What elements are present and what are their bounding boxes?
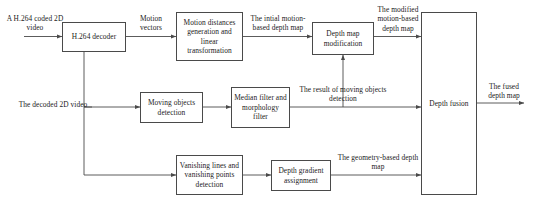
input-label-coded-video: A H.264 coded 2D video: [4, 14, 66, 33]
node-h264-decoder[interactable]: H.264 decoder: [62, 22, 126, 52]
node-median-morphology-filter-label: Median filter and morphology filter: [234, 93, 287, 121]
input-label-decoded-video-text: The decoded 2D video: [19, 100, 88, 109]
node-median-morphology-filter[interactable]: Median filter and morphology filter: [231, 87, 290, 128]
flowchart-diagram: Depth fusion H.264 decoder Motion distan…: [0, 0, 533, 207]
node-motion-distances-label: Motion distances generation and linear t…: [179, 18, 240, 56]
node-motion-distances[interactable]: Motion distances generation and linear t…: [176, 12, 243, 61]
node-depth-gradient-assignment-label: Depth gradient assignment: [274, 166, 328, 185]
input-label-coded-video-text: A H.264 coded 2D video: [7, 14, 64, 32]
node-depth-gradient-assignment[interactable]: Depth gradient assignment: [271, 160, 331, 191]
node-vanishing-detection-label: Vanishing lines and vanishing points det…: [179, 161, 240, 189]
node-vanishing-detection[interactable]: Vanishing lines and vanishing points det…: [176, 155, 243, 195]
output-label-fused-depth-map: The fused depth map: [480, 82, 528, 101]
node-depth-map-modification-label: Depth map modification: [315, 29, 371, 48]
node-moving-objects-detection-label: Moving objects detection: [143, 98, 200, 117]
node-depth-fusion[interactable]: Depth fusion: [421, 12, 477, 195]
node-moving-objects-detection[interactable]: Moving objects detection: [140, 92, 203, 123]
input-label-decoded-video: The decoded 2D video: [14, 100, 92, 109]
output-label-fused-depth-map-text: The fused depth map: [488, 82, 520, 100]
node-h264-decoder-label: H.264 decoder: [72, 32, 116, 41]
node-depth-map-modification[interactable]: Depth map modification: [312, 22, 374, 55]
node-depth-fusion-label: Depth fusion: [429, 99, 468, 108]
